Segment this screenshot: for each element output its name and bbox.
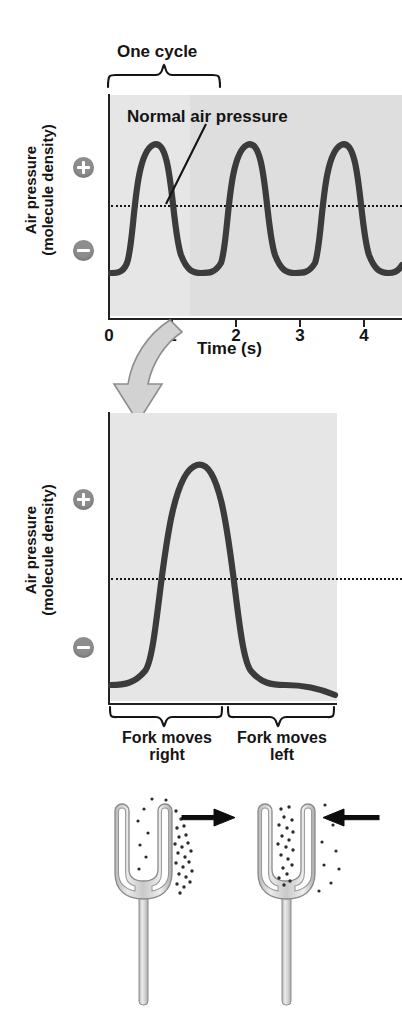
sound-wave-figure: One cycle Normal air pressure Air pressu… bbox=[0, 0, 402, 1020]
detail-y-axis-title-line1: Air pressure bbox=[22, 506, 39, 594]
tuning-fork-illustration bbox=[100, 795, 380, 1005]
normal-air-pressure-label: Normal air pressure bbox=[127, 108, 288, 126]
fork-left-brace bbox=[226, 706, 338, 728]
fork-moves-right-label: Fork moves right bbox=[111, 729, 223, 764]
normal-pressure-leader bbox=[160, 124, 220, 208]
fork-right-brace bbox=[108, 706, 226, 728]
tuning-fork-moving-right bbox=[115, 797, 235, 1005]
expand-arrow-icon bbox=[108, 318, 198, 428]
top-chart-wave bbox=[109, 95, 402, 316]
y-axis-title-line1: Air pressure bbox=[22, 146, 39, 234]
detail-chart-y-axis-title: Air pressure (molecule density) bbox=[22, 435, 57, 665]
fork-right-line1: Fork moves bbox=[122, 729, 212, 746]
plus-badge bbox=[73, 157, 94, 178]
detail-chart-wave bbox=[109, 413, 337, 701]
top-chart-ticklabel-3: 3 bbox=[290, 326, 310, 346]
top-chart-x-axis-title: Time (s) bbox=[197, 340, 262, 358]
fork-moves-left-label: Fork moves left bbox=[228, 729, 336, 764]
y-axis-title-line2: (molecule density) bbox=[39, 124, 56, 256]
detail-plus-badge bbox=[73, 489, 94, 510]
fork-left-line2: left bbox=[270, 746, 294, 763]
top-chart-ticklabel-4: 4 bbox=[354, 326, 374, 346]
fork-left-line1: Fork moves bbox=[237, 729, 327, 746]
fork-right-line2: right bbox=[149, 746, 185, 763]
top-chart-y-axis-title: Air pressure (molecule density) bbox=[22, 90, 57, 290]
tuning-fork-moving-left bbox=[258, 803, 379, 1005]
minus-badge bbox=[73, 240, 94, 261]
detail-minus-badge bbox=[73, 637, 94, 658]
one-cycle-brace bbox=[106, 63, 226, 89]
one-cycle-label: One cycle bbox=[117, 43, 197, 61]
fork-right-arrow-icon bbox=[182, 809, 235, 826]
detail-y-axis-title-line2: (molecule density) bbox=[39, 484, 56, 616]
fork-left-arrow-icon bbox=[323, 809, 379, 826]
